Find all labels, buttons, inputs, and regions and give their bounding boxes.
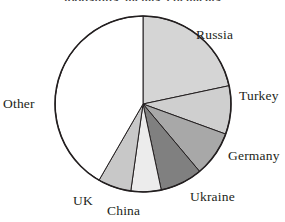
slice-label-russia: Russia xyxy=(196,27,233,43)
slice-label-other: Other xyxy=(3,96,35,112)
slice-label-germany: Germany xyxy=(228,148,280,164)
slice-label-china: China xyxy=(107,203,140,219)
slice-label-ukraine: Ukraine xyxy=(190,189,235,205)
pie-chart-graphic xyxy=(0,0,285,222)
pie-chart-figure: foodstuffs, metals, chemicals Russia Tur… xyxy=(0,0,285,222)
slice-label-uk: UK xyxy=(73,193,93,209)
slice-label-turkey: Turkey xyxy=(239,88,279,104)
